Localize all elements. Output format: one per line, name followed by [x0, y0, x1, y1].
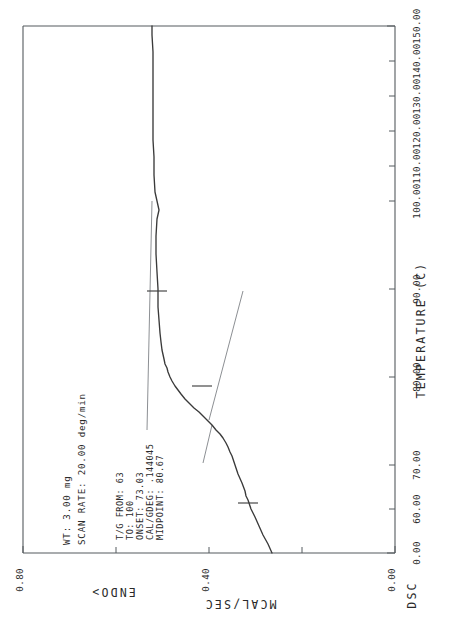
- x-tick-label-110: 110.00: [411, 148, 422, 184]
- lower-baseline-extrapolation-line: [209, 291, 243, 420]
- dsc-thermogram: 150.00 140.00 130.00 120.00 110.00 100.0…: [0, 0, 450, 625]
- x-axis-title: TEMPERATURE (C): [414, 262, 428, 399]
- y-tick-label-040: 0.40: [200, 568, 211, 592]
- onset-tangent-line: [203, 425, 212, 463]
- x-tick-label-70: 70.00: [411, 450, 422, 480]
- tg-annotation-block: T/G FROM: 63 TO: 100 ONSET: 73.03 CAL/GD…: [115, 444, 165, 540]
- x-tick-label-120: 120.00: [411, 113, 422, 149]
- tg-from-text: T/G FROM: 63: [115, 472, 125, 540]
- x-tick-label-150: 150.00: [411, 8, 422, 44]
- x-tick-label-0: 0.00: [411, 541, 422, 565]
- endo-direction-label: ENDO>: [90, 585, 136, 599]
- sample-weight-text: WT: 3.00 mg: [61, 475, 72, 545]
- mcal-tick-labels: 0.80 0.40 0.00: [14, 568, 397, 592]
- tg-to-text: TO: 100: [125, 500, 135, 540]
- heat-flow-curve: [152, 26, 272, 553]
- y-tick-label-000: 0.00: [386, 568, 397, 592]
- x-tick-label-100: 100.00: [411, 183, 422, 219]
- temperature-axis-ticks: [387, 26, 395, 553]
- x-tick-label-60: 60.00: [411, 494, 422, 524]
- header-annotation-block: WT: 3.00 mg SCAN RATE: 20.00 deg/min: [61, 393, 87, 545]
- scan-rate-text: SCAN RATE: 20.00 deg/min: [76, 393, 87, 545]
- x-tick-label-130: 130.00: [411, 78, 422, 114]
- dsc-plot-svg: 150.00 140.00 130.00 120.00 110.00 100.0…: [0, 0, 450, 625]
- cal-gdeg-text: CAL/GDEG: .144045: [145, 444, 155, 540]
- mcal-axis-ticks: [23, 546, 395, 553]
- y-axis-title: MCAL/SEC: [204, 597, 277, 611]
- x-tick-label-140: 140.00: [411, 43, 422, 79]
- construction-lines: [147, 201, 243, 463]
- instrument-footer-label: DSC: [405, 581, 419, 608]
- midpoint-text: MIDPOINT: 80.67: [155, 455, 165, 540]
- upper-baseline-extrapolation-line: [147, 201, 152, 430]
- onset-text: ONSET: 73.03: [135, 472, 145, 540]
- y-tick-label-080: 0.80: [14, 568, 25, 592]
